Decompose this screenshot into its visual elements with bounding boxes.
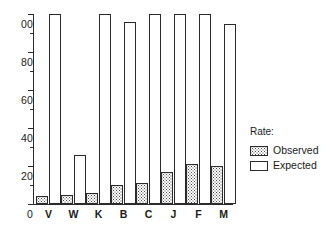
y-tick-major <box>28 90 33 91</box>
legend-entry-observed: Observed <box>250 145 335 156</box>
bar-expected <box>224 24 236 205</box>
bar-group: V <box>36 10 61 204</box>
bar-observed <box>86 193 98 204</box>
bar-observed <box>36 196 48 204</box>
y-tick-label: 20 <box>21 171 33 182</box>
chart-legend: Rate: Observed Expected <box>250 126 335 175</box>
bar-observed <box>136 183 148 204</box>
bar-observed <box>161 172 173 204</box>
bar-expected <box>174 14 186 204</box>
legend-label-expected: Expected <box>273 160 317 171</box>
bar-expected <box>74 155 86 204</box>
y-axis-labels: 02040608000 <box>0 10 33 208</box>
y-tick-label: 00 <box>21 19 33 30</box>
bar-observed <box>111 185 123 204</box>
bar-expected <box>49 14 61 204</box>
bar-group: C <box>136 10 161 204</box>
legend-title: Rate: <box>250 126 335 138</box>
y-tick-minor <box>30 185 34 186</box>
y-tick-label: 40 <box>21 133 33 144</box>
bar-expected <box>99 14 111 204</box>
legend-label-observed: Observed <box>273 145 319 156</box>
bar-chart: 02040608000 VWKBCJFM Rate: Observed Expe… <box>0 0 335 235</box>
y-tick-major <box>28 52 33 53</box>
y-tick-minor <box>30 33 34 34</box>
y-tick-major <box>28 204 33 205</box>
bar-groups: VWKBCJFM <box>33 10 233 204</box>
y-tick-label: 80 <box>21 57 33 68</box>
x-tick-label: K <box>86 209 111 220</box>
y-tick-major <box>28 14 33 15</box>
bar-expected <box>124 22 136 204</box>
x-tick-label: W <box>61 209 86 220</box>
y-tick-minor <box>30 147 34 148</box>
bar-group: M <box>211 10 236 204</box>
y-tick-major <box>28 166 33 167</box>
bar-observed <box>186 164 198 204</box>
bar-expected <box>149 14 161 204</box>
bar-group: F <box>186 10 211 204</box>
y-tick-major <box>28 128 33 129</box>
legend-swatch-expected <box>250 161 268 171</box>
x-tick-label: J <box>161 209 186 220</box>
bar-group: W <box>61 10 86 204</box>
legend-entry-expected: Expected <box>250 160 335 171</box>
x-axis-line <box>33 204 233 205</box>
bar-expected <box>199 14 211 204</box>
bar-group: J <box>161 10 186 204</box>
x-tick-label: M <box>211 209 236 220</box>
x-tick-label: B <box>111 209 136 220</box>
bar-group: K <box>86 10 111 204</box>
y-tick-minor <box>30 109 34 110</box>
y-tick-label: 0 <box>27 209 33 220</box>
x-tick-label: V <box>36 209 61 220</box>
bar-observed <box>211 166 223 204</box>
x-tick-label: F <box>186 209 211 220</box>
y-tick-minor <box>30 71 34 72</box>
plot-area: VWKBCJFM <box>33 10 233 208</box>
y-tick-label: 60 <box>21 95 33 106</box>
x-tick-label: C <box>136 209 161 220</box>
legend-swatch-observed <box>250 146 268 156</box>
bar-observed <box>61 195 73 205</box>
bar-group: B <box>111 10 136 204</box>
